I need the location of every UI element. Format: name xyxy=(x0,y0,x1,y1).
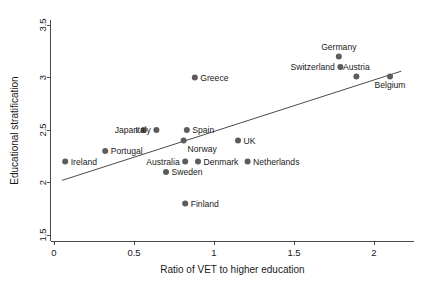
data-point-label: Sweden xyxy=(172,167,203,177)
y-axis-title: Educational stratification xyxy=(9,76,20,184)
data-point-label: Norway xyxy=(188,144,218,154)
data-point-marker xyxy=(192,75,198,81)
x-axis-title: Ratio of VET to higher education xyxy=(160,264,304,275)
data-point-label: Portugal xyxy=(111,146,143,156)
data-point-marker xyxy=(181,138,187,144)
y-tick-label: 1.5 xyxy=(37,228,48,241)
data-point-marker xyxy=(195,159,201,165)
data-point-label: Italy xyxy=(135,125,151,135)
data-point-marker xyxy=(102,148,108,154)
data-point-marker xyxy=(163,169,169,175)
x-tick-label: 2 xyxy=(371,247,376,258)
data-point-marker xyxy=(182,201,188,207)
data-point-marker xyxy=(184,127,190,133)
scatter-chart-figure: 1.522.533.500.511.52 IrelandPortugalJapa… xyxy=(0,0,421,306)
data-point-marker xyxy=(387,73,393,79)
data-point-marker xyxy=(235,138,241,144)
data-point-label: Belgium xyxy=(374,80,405,90)
x-tick-label: 1.5 xyxy=(287,247,300,258)
data-point-marker xyxy=(62,159,68,165)
data-point-label: Finland xyxy=(191,199,219,209)
data-point-label: Austria xyxy=(343,62,370,72)
axes-group: 1.522.533.500.511.52 xyxy=(37,18,414,258)
data-point-label: Switzerland xyxy=(290,62,335,72)
axis-titles-group: Ratio of VET to higher educationEducatio… xyxy=(9,76,305,275)
data-point-label: Spain xyxy=(192,125,214,135)
y-tick-label: 3.5 xyxy=(37,18,48,31)
data-point-marker xyxy=(245,159,251,165)
x-tick-label: 0.5 xyxy=(127,247,140,258)
data-point-label: Denmark xyxy=(204,157,240,167)
data-point-label: Australia xyxy=(146,157,180,167)
data-point-label: UK xyxy=(244,136,256,146)
data-point-marker xyxy=(182,159,188,165)
y-tick-label: 3 xyxy=(37,75,48,80)
data-point-label: Germany xyxy=(321,42,357,52)
y-tick-label: 2.5 xyxy=(37,123,48,136)
point-labels-group: IrelandPortugalJapanItalySwedenAustralia… xyxy=(71,42,406,209)
data-point-marker xyxy=(153,127,159,133)
data-point-label: Netherlands xyxy=(253,157,299,167)
x-tick-label: 1 xyxy=(211,247,216,258)
data-point-label: Greece xyxy=(200,73,228,83)
chart-canvas: 1.522.533.500.511.52 IrelandPortugalJapa… xyxy=(0,0,421,306)
data-point-marker xyxy=(336,54,342,60)
y-tick-label: 2 xyxy=(37,180,48,185)
data-point-marker xyxy=(353,73,359,79)
data-point-label: Ireland xyxy=(71,157,97,167)
x-tick-label: 0 xyxy=(51,247,56,258)
